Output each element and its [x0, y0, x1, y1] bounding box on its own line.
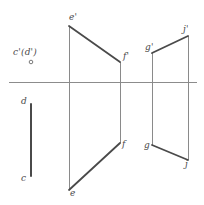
- label-d: d: [21, 97, 27, 106]
- edge-g-j: [152, 145, 188, 160]
- label-j-prime: j': [183, 25, 189, 34]
- edge-e-prime-f-prime: [69, 26, 120, 62]
- edge-e-f: [69, 143, 120, 190]
- edge-g-prime-j-prime: [152, 36, 188, 53]
- drawing-canvas: c'(d') d c e' f' f e g' j' g j: [0, 0, 204, 205]
- cd-point-marker: [29, 60, 33, 64]
- label-e-prime: e': [69, 13, 77, 22]
- label-c-prime-d-prime: c'(d'): [13, 48, 37, 57]
- label-g-prime: g': [145, 43, 154, 52]
- label-f-prime: f': [123, 52, 129, 61]
- label-g: g: [144, 141, 150, 150]
- label-j: j: [185, 160, 188, 169]
- label-c: c: [21, 174, 26, 183]
- projection-drawing: [0, 0, 204, 205]
- label-f: f: [122, 140, 126, 149]
- label-e: e: [70, 189, 76, 198]
